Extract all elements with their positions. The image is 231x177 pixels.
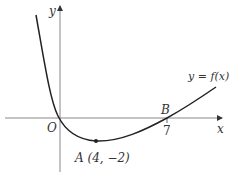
x-axis-label: x <box>217 123 224 135</box>
origin-label: O <box>47 122 57 134</box>
point-a-label: A (4, −2) <box>75 152 130 164</box>
point-b-label: B <box>161 104 170 116</box>
point-a-marker <box>94 139 98 143</box>
y-axis-label: y <box>49 5 56 17</box>
tick-7-label: 7 <box>163 125 171 137</box>
graph-diagram: y x O y = f(x) B 7 A (4, −2) <box>0 0 231 177</box>
curve-label: y = f(x) <box>188 71 229 82</box>
